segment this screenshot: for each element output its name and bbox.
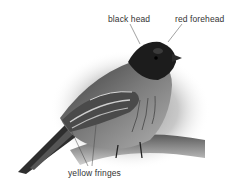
leader-black-head xyxy=(130,24,140,44)
beak xyxy=(172,54,182,62)
leader-red-forehead xyxy=(168,24,182,42)
eye xyxy=(154,56,158,60)
bird-diagram: black head red forehead yellow fringes xyxy=(0,0,235,186)
forehead-patch xyxy=(153,48,163,54)
bird-illustration xyxy=(0,0,235,186)
label-yellow-fringes: yellow fringes xyxy=(68,168,121,178)
label-red-forehead: red forehead xyxy=(175,14,224,24)
label-black-head: black head xyxy=(108,14,150,24)
